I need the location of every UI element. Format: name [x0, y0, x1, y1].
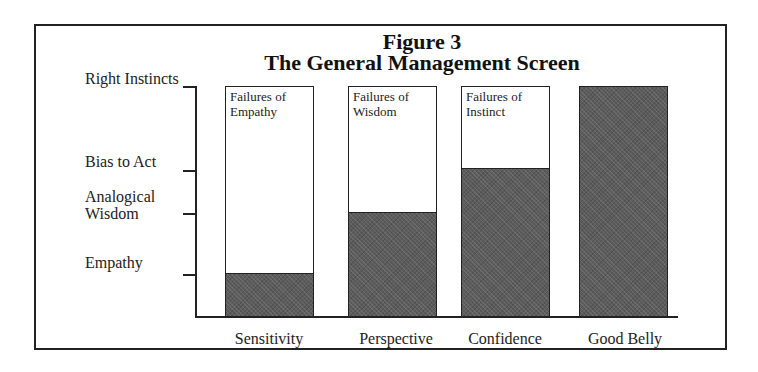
bar-fill	[349, 212, 436, 316]
y-axis-line	[195, 86, 197, 317]
bar-confidence: Failures of Instinct	[461, 86, 550, 317]
note-line2: Instinct	[466, 104, 522, 119]
y-label-bias-to-act: Bias to Act	[85, 153, 156, 170]
tick-right-instincts	[183, 86, 196, 88]
bar-sensitivity: Failures of Empathy	[225, 86, 314, 317]
note-line1: Failures of	[230, 89, 286, 104]
note-line2: Empathy	[230, 104, 286, 119]
tick-empathy	[183, 274, 196, 276]
x-label-good-belly: Good Belly	[565, 330, 685, 348]
tick-analogical-wisdom	[183, 213, 196, 215]
note-line1: Failures of	[466, 89, 522, 104]
note-line2: Wisdom	[353, 104, 409, 119]
y-label-empathy: Empathy	[85, 254, 143, 271]
x-label-perspective: Perspective	[336, 330, 456, 348]
bar-fill	[580, 87, 667, 316]
bar-annotation: Failures of Wisdom	[353, 89, 409, 119]
bar-annotation: Failures of Instinct	[466, 89, 522, 119]
bar-good-belly	[579, 86, 668, 317]
y-label-right-instincts: Right Instincts	[85, 70, 179, 87]
x-label-confidence: Confidence	[445, 330, 565, 348]
bar-fill	[462, 168, 549, 316]
bar-annotation: Failures of Empathy	[230, 89, 286, 119]
y-label-analogical-wisdom: Analogical Wisdom	[85, 188, 155, 222]
y-label-analogical-line1: Analogical	[85, 188, 155, 205]
bar-fill	[226, 273, 313, 316]
y-label-analogical-line2: Wisdom	[85, 205, 155, 222]
x-label-sensitivity: Sensitivity	[209, 330, 329, 348]
tick-bias-to-act	[183, 170, 196, 172]
note-line1: Failures of	[353, 89, 409, 104]
bar-perspective: Failures of Wisdom	[348, 86, 437, 317]
